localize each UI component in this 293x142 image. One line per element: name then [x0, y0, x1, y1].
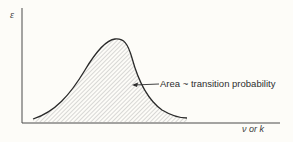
y-axis-label: ε — [10, 9, 14, 20]
area-annotation: Area ~ transition probability — [160, 78, 275, 89]
diagram-canvas — [0, 0, 293, 142]
x-axis-label: ν or k — [242, 124, 264, 134]
